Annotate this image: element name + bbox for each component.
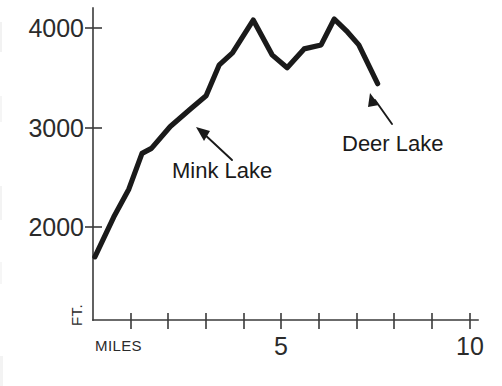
annotation-deer-lake xyxy=(368,93,392,124)
x-tick-label-10: 10 xyxy=(456,332,484,360)
annotation-mink-lake xyxy=(196,127,232,160)
y-tick-label-2000: 2000 xyxy=(28,213,84,241)
x-axis-title: MILES xyxy=(95,337,142,354)
x-axis xyxy=(93,313,478,329)
y-tick-label-4000: 4000 xyxy=(28,14,84,42)
y-axis-title: FT. xyxy=(68,304,85,326)
elevation-profile-line xyxy=(95,19,378,257)
y-tick-label-3000: 3000 xyxy=(28,114,84,142)
scan-edge-artifacts xyxy=(0,22,3,386)
chart-page: 4000 3000 2000 FT. MILES 5 10 M xyxy=(0,0,502,386)
y-axis xyxy=(85,8,102,320)
deer-lake-arrow-head xyxy=(368,93,379,107)
elevation-profile-chart: 4000 3000 2000 FT. MILES 5 10 M xyxy=(0,0,502,386)
mink-lake-arrow-head xyxy=(196,127,210,141)
mink-lake-label: Mink Lake xyxy=(172,158,272,183)
deer-lake-label: Deer Lake xyxy=(342,131,444,156)
x-tick-label-5: 5 xyxy=(274,332,288,360)
